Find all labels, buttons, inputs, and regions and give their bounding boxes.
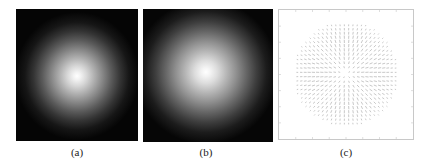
panel-b-grayscale-image <box>143 9 273 142</box>
panel-c-quiver-plot <box>278 9 414 140</box>
quiver-field <box>279 10 413 139</box>
caption-c: (c) <box>331 145 361 159</box>
caption-b: (b) <box>191 145 221 159</box>
panel-a-grayscale-image <box>16 9 138 141</box>
caption-a: (a) <box>62 145 92 159</box>
